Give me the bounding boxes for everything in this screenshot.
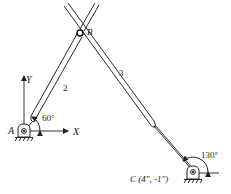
point-B-label: B <box>87 27 93 37</box>
point-C-label: C (4", -1") <box>130 174 168 184</box>
y-axis-label: Y <box>26 74 33 85</box>
ground-pivot-A <box>15 124 33 141</box>
link-2 <box>25 3 99 130</box>
x-axis-label: X <box>72 126 80 137</box>
ground-pivot-C <box>184 166 202 183</box>
link-3-label: 3 <box>119 68 124 78</box>
angle-130-label: 130° <box>201 150 219 160</box>
point-A-label: A <box>7 125 15 136</box>
link-2-label: 2 <box>63 83 68 93</box>
linkage-diagram: Y X A B C (4", -1") 2 3 60° 130° <box>0 0 231 194</box>
link-3 <box>64 3 194 171</box>
angle-60-label: 60° <box>42 113 55 123</box>
pin-B <box>77 30 83 36</box>
